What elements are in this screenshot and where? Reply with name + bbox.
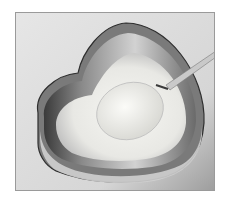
heart-tin-photo [16,13,215,191]
photo-frame [15,12,215,191]
